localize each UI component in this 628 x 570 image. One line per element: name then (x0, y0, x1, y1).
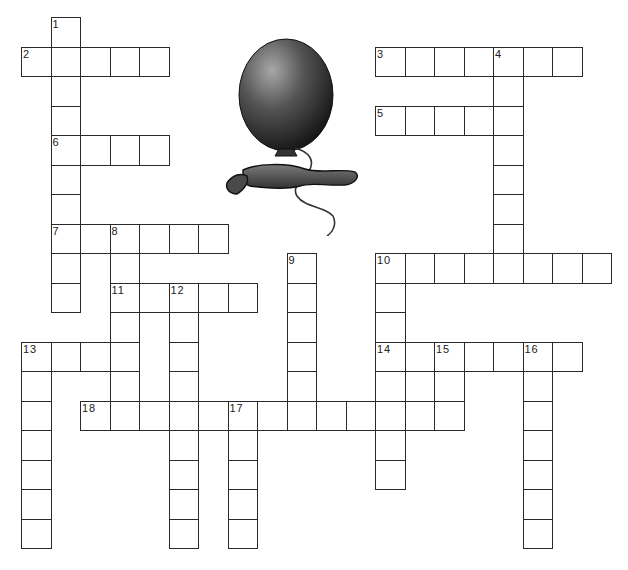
crossword-cell[interactable] (493, 165, 524, 196)
crossword-cell[interactable] (169, 342, 200, 373)
crossword-cell[interactable]: 6 (51, 135, 82, 166)
crossword-cell[interactable]: 7 (51, 224, 82, 255)
crossword-cell[interactable] (80, 47, 111, 78)
crossword-cell[interactable] (169, 460, 200, 491)
crossword-cell[interactable] (493, 194, 524, 225)
crossword-cell[interactable] (169, 519, 200, 550)
crossword-cell[interactable] (21, 519, 52, 550)
crossword-cell[interactable] (110, 135, 141, 166)
crossword-cell[interactable]: 12 (169, 283, 200, 314)
crossword-cell[interactable] (493, 135, 524, 166)
crossword-cell[interactable]: 2 (21, 47, 52, 78)
crossword-cell[interactable] (51, 47, 82, 78)
crossword-cell[interactable]: 8 (110, 224, 141, 255)
crossword-cell[interactable] (375, 312, 406, 343)
crossword-cell[interactable] (405, 47, 436, 78)
crossword-cell[interactable] (434, 371, 465, 402)
crossword-cell[interactable] (375, 283, 406, 314)
crossword-cell[interactable]: 18 (80, 401, 111, 432)
crossword-cell[interactable] (21, 371, 52, 402)
crossword-cell[interactable] (405, 106, 436, 137)
crossword-cell[interactable]: 16 (523, 342, 554, 373)
crossword-cell[interactable] (21, 460, 52, 491)
crossword-cell[interactable]: 5 (375, 106, 406, 137)
crossword-cell[interactable] (287, 312, 318, 343)
crossword-cell[interactable] (110, 47, 141, 78)
crossword-cell[interactable]: 10 (375, 253, 406, 284)
crossword-cell[interactable] (80, 135, 111, 166)
crossword-cell[interactable] (375, 401, 406, 432)
crossword-cell[interactable] (375, 460, 406, 491)
crossword-cell[interactable]: 1 (51, 17, 82, 48)
crossword-cell[interactable] (139, 135, 170, 166)
crossword-cell[interactable] (198, 283, 229, 314)
crossword-cell[interactable] (464, 47, 495, 78)
crossword-cell[interactable] (434, 106, 465, 137)
crossword-cell[interactable] (169, 312, 200, 343)
crossword-cell[interactable] (523, 430, 554, 461)
crossword-cell[interactable] (21, 430, 52, 461)
crossword-cell[interactable] (228, 519, 259, 550)
crossword-cell[interactable] (169, 371, 200, 402)
crossword-cell[interactable] (523, 253, 554, 284)
crossword-cell[interactable] (552, 47, 583, 78)
crossword-cell[interactable]: 17 (228, 401, 259, 432)
crossword-cell[interactable] (139, 401, 170, 432)
crossword-cell[interactable] (493, 106, 524, 137)
crossword-cell[interactable] (51, 194, 82, 225)
crossword-cell[interactable] (51, 106, 82, 137)
crossword-cell[interactable] (552, 342, 583, 373)
crossword-cell[interactable] (287, 283, 318, 314)
crossword-cell[interactable] (523, 489, 554, 520)
crossword-cell[interactable] (405, 253, 436, 284)
crossword-cell[interactable] (287, 401, 318, 432)
crossword-cell[interactable] (51, 165, 82, 196)
crossword-cell[interactable] (434, 401, 465, 432)
crossword-cell[interactable] (434, 47, 465, 78)
crossword-cell[interactable]: 3 (375, 47, 406, 78)
crossword-cell[interactable]: 4 (493, 47, 524, 78)
crossword-cell[interactable] (169, 224, 200, 255)
crossword-cell[interactable] (228, 283, 259, 314)
crossword-cell[interactable] (110, 253, 141, 284)
crossword-cell[interactable] (493, 76, 524, 107)
crossword-cell[interactable] (375, 371, 406, 402)
crossword-cell[interactable] (80, 224, 111, 255)
crossword-cell[interactable] (21, 401, 52, 432)
crossword-cell[interactable] (110, 401, 141, 432)
crossword-cell[interactable] (287, 342, 318, 373)
crossword-cell[interactable] (51, 76, 82, 107)
crossword-cell[interactable] (228, 489, 259, 520)
crossword-cell[interactable] (316, 401, 347, 432)
crossword-cell[interactable] (375, 430, 406, 461)
crossword-cell[interactable] (228, 430, 259, 461)
crossword-cell[interactable] (51, 283, 82, 314)
crossword-cell[interactable]: 13 (21, 342, 52, 373)
crossword-cell[interactable] (169, 430, 200, 461)
crossword-cell[interactable] (110, 371, 141, 402)
crossword-cell[interactable] (110, 342, 141, 373)
crossword-cell[interactable]: 11 (110, 283, 141, 314)
crossword-cell[interactable] (287, 371, 318, 402)
crossword-cell[interactable] (139, 283, 170, 314)
crossword-cell[interactable] (346, 401, 377, 432)
crossword-cell[interactable] (523, 460, 554, 491)
crossword-cell[interactable] (80, 342, 111, 373)
crossword-cell[interactable] (493, 224, 524, 255)
crossword-cell[interactable] (169, 401, 200, 432)
crossword-cell[interactable] (139, 47, 170, 78)
crossword-cell[interactable] (434, 253, 465, 284)
crossword-cell[interactable] (523, 371, 554, 402)
crossword-cell[interactable] (51, 253, 82, 284)
crossword-cell[interactable] (198, 401, 229, 432)
crossword-cell[interactable] (582, 253, 613, 284)
crossword-cell[interactable] (110, 312, 141, 343)
crossword-cell[interactable] (464, 106, 495, 137)
crossword-cell[interactable] (523, 47, 554, 78)
crossword-cell[interactable]: 14 (375, 342, 406, 373)
crossword-cell[interactable] (21, 489, 52, 520)
crossword-cell[interactable] (523, 519, 554, 550)
crossword-cell[interactable] (405, 342, 436, 373)
crossword-cell[interactable]: 15 (434, 342, 465, 373)
crossword-cell[interactable] (139, 224, 170, 255)
